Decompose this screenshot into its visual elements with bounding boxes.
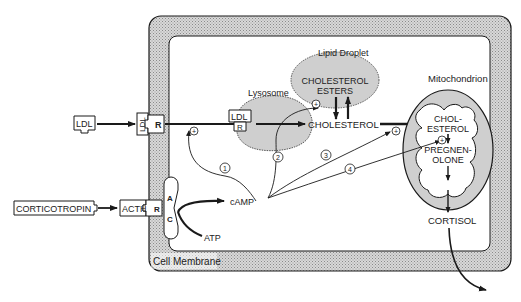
cholesterol-esters-line2: ESTERS xyxy=(317,86,353,96)
ac-a-label: A xyxy=(167,194,173,203)
ldl-receptor-ligand-label: LDL xyxy=(138,117,147,132)
mitochondrion-label: Mitochondrion xyxy=(428,73,488,84)
mito-cholesterol-line2: ESTEROL xyxy=(427,124,469,134)
ldl-particle: LDL xyxy=(74,116,95,133)
corticotropin-label: CORTICOTROPIN xyxy=(16,204,91,214)
pathway-4-label: 4 xyxy=(348,166,352,173)
ac-c-label: C xyxy=(167,215,173,224)
lysosome-ldl-label: LDL xyxy=(231,112,248,122)
pathway-1-label: 1 xyxy=(223,165,227,172)
atp-label: ATP xyxy=(204,233,221,243)
pregnenolone-line1: PREGNEN- xyxy=(424,145,472,155)
plus-icon: + xyxy=(192,128,196,135)
mito-cholesterol-line1: CHOL- xyxy=(434,114,462,124)
acth-receptor: ACTH R xyxy=(120,200,162,216)
plus-icon: + xyxy=(394,128,398,135)
lysosome-r-label: R xyxy=(237,123,243,132)
ldl-receptor: LDL R xyxy=(137,113,164,135)
cell-membrane-label: Cell Membrane xyxy=(153,256,221,267)
plus-icon: + xyxy=(314,101,318,108)
acth-receptor-label: R xyxy=(154,205,160,214)
steroidogenesis-diagram: Cell Membrane LDL LDL R Lysosome LDL R L… xyxy=(0,0,521,302)
pathway-2-label: 2 xyxy=(276,154,280,161)
cholesterol-label: CHOLESTEROL xyxy=(308,119,379,130)
lysosome-label: Lysosome xyxy=(248,88,289,98)
ldl-label: LDL xyxy=(76,119,93,129)
acth-label: ACTH xyxy=(122,204,147,214)
camp-label: cAMP xyxy=(230,197,254,207)
corticotropin: CORTICOTROPIN xyxy=(14,201,97,215)
plus-icon: + xyxy=(440,137,444,144)
pathway-3-label: 3 xyxy=(324,152,328,159)
cortisol-label: CORTISOL xyxy=(428,215,476,226)
ldl-receptor-label: R xyxy=(155,120,162,130)
cholesterol-esters-line1: CHOLESTEROL xyxy=(301,76,368,86)
lipid-droplet-label: Lipid Droplet xyxy=(318,48,369,58)
pregnenolone-line2: OLONE xyxy=(432,155,464,165)
